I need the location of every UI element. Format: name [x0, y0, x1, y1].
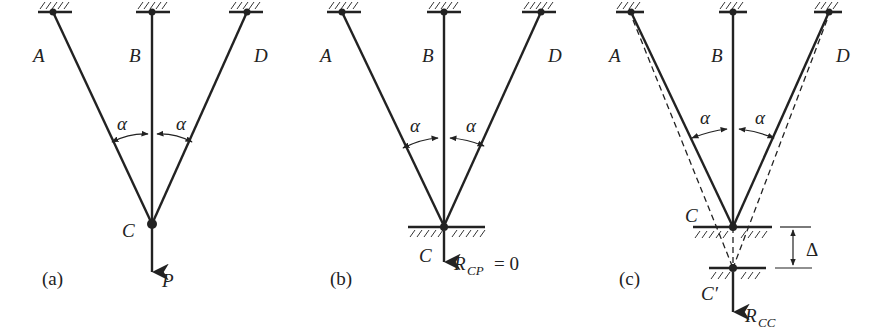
- panel-a: A B D C α α P (a): [31, 2, 268, 291]
- three-bar-truss-figure: A B D C α α P (a): [0, 0, 891, 331]
- reaction-symbol: R: [453, 253, 466, 274]
- angle-arc-right-icon: [739, 129, 774, 138]
- reaction-label: R CC: [744, 305, 776, 330]
- reaction-value: = 0: [494, 253, 519, 274]
- label-node-d: D: [253, 45, 268, 66]
- label-node-b: B: [422, 45, 434, 66]
- member-dc: [444, 12, 541, 226]
- member-dc-displaced: [733, 20, 827, 268]
- caption-b: (b): [330, 268, 352, 290]
- caption-a: (a): [42, 268, 63, 290]
- panel-c: A B D C C′ α α Δ R CC (c): [607, 2, 850, 330]
- label-angle-left: α: [410, 115, 421, 136]
- label-node-b: B: [129, 45, 141, 66]
- angle-arc-right-icon: [157, 134, 192, 142]
- label-angle-left: α: [117, 113, 128, 134]
- label-angle-left: α: [700, 107, 711, 128]
- support-c-prime-icon: [709, 264, 766, 279]
- member-ac: [53, 12, 152, 224]
- label-node-b: B: [711, 45, 723, 66]
- angle-arc-left-icon: [403, 138, 438, 148]
- label-node-a: A: [607, 45, 621, 66]
- label-node-c-prime: C′: [701, 283, 719, 304]
- support-a-icon: [616, 2, 644, 16]
- reaction-label: R CP = 0: [453, 253, 519, 278]
- reaction-subscript: CP: [467, 263, 484, 278]
- support-c-icon: [408, 223, 485, 237]
- label-node-d: D: [547, 45, 562, 66]
- angle-arc-right-icon: [450, 138, 484, 146]
- caption-c: (c): [619, 268, 640, 290]
- angle-arc-left-icon: [112, 134, 148, 142]
- label-load-p: P: [161, 270, 174, 291]
- label-node-a: A: [318, 45, 332, 66]
- support-c-icon: [693, 223, 772, 238]
- member-dc: [733, 12, 829, 227]
- label-node-c: C: [685, 205, 698, 226]
- label-node-c: C: [122, 220, 135, 241]
- member-dc: [152, 12, 247, 224]
- label-displacement: Δ: [806, 239, 818, 260]
- label-node-d: D: [835, 45, 850, 66]
- joint-c: [147, 219, 157, 229]
- label-node-a: A: [31, 45, 45, 66]
- angle-arc-left-icon: [692, 129, 727, 138]
- panel-b: A B D C α α R CP = 0 (b): [318, 2, 562, 290]
- reaction-symbol: R: [744, 305, 757, 326]
- label-angle-right: α: [176, 113, 187, 134]
- label-angle-right: α: [466, 115, 477, 136]
- support-d-icon: [522, 2, 556, 16]
- label-angle-right: α: [755, 107, 766, 128]
- reaction-subscript: CC: [758, 315, 776, 330]
- label-node-c: C: [419, 245, 432, 266]
